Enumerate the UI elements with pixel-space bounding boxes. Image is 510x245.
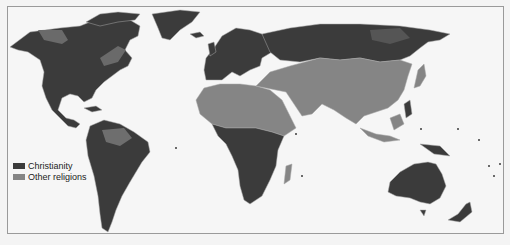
legend-item-christianity: Christianity <box>13 160 87 171</box>
philippines <box>404 100 412 118</box>
world-map <box>0 0 510 245</box>
north-america <box>10 18 140 128</box>
legend-label: Christianity <box>28 161 73 171</box>
russia <box>262 24 450 62</box>
christianity-swatch-icon <box>13 163 25 169</box>
madagascar <box>284 164 292 184</box>
japan <box>414 64 426 88</box>
iceland <box>190 32 204 38</box>
legend: Christianity Other religions <box>13 160 87 182</box>
legend-label: Other religions <box>28 172 87 182</box>
caribbean <box>84 106 102 112</box>
tasmania <box>420 210 426 216</box>
australia <box>388 162 446 204</box>
legend-item-other-religions: Other religions <box>13 171 87 182</box>
other-religions-swatch-icon <box>13 174 25 180</box>
new-zealand <box>448 202 472 222</box>
new-guinea <box>420 144 450 156</box>
borneo <box>390 114 404 130</box>
europe <box>204 28 272 80</box>
sub-saharan-africa <box>212 124 284 204</box>
